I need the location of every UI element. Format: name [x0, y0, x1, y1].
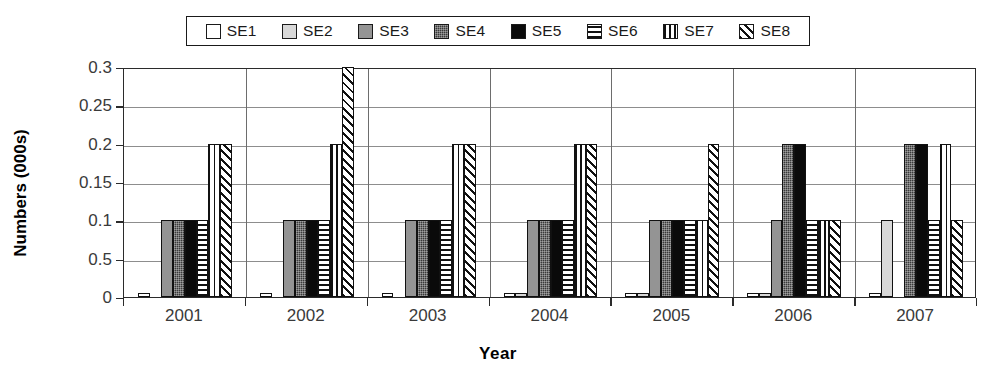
bar-2007-se8: [951, 220, 963, 297]
x-tick-mark: [610, 298, 611, 306]
legend-label: SE6: [608, 22, 638, 40]
x-tick-label: 2001: [165, 306, 203, 326]
group-separator: [246, 69, 247, 297]
bar-2006-se1: [747, 293, 759, 297]
bar-group-2003: [382, 69, 476, 297]
bar-2003-se7: [452, 144, 464, 297]
bar-2001-se7: [208, 144, 220, 297]
legend-swatch-se6-icon: [587, 24, 602, 39]
x-tick-mark: [976, 298, 977, 306]
x-tick-mark: [367, 298, 368, 306]
legend-swatch-se1-icon: [206, 24, 221, 39]
bar-2001-se5: [185, 220, 197, 297]
legend-label: SE1: [227, 22, 257, 40]
legend-label: SE2: [303, 22, 333, 40]
bar-group-2006: [747, 69, 841, 297]
bar-2006-se5: [794, 144, 806, 297]
y-tick-mark: [116, 221, 123, 222]
x-tick-mark: [732, 298, 733, 306]
bar-2005-se2: [637, 293, 649, 297]
bar-2006-se4: [782, 144, 794, 297]
legend-swatch-se2-icon: [282, 24, 297, 39]
y-axis-title: Numbers (000s): [11, 108, 31, 278]
bar-2007-se1: [869, 293, 881, 297]
bar-group-2007: [869, 69, 963, 297]
bar-2004-se7: [574, 144, 586, 297]
chart-legend: SE1SE2SE3SE4SE5SE6SE7SE8: [186, 16, 810, 46]
bar-2005-se1: [625, 293, 637, 297]
legend-item-se3: SE3: [358, 22, 409, 40]
legend-swatch-se8-icon: [739, 24, 754, 39]
bar-2003-se5: [429, 220, 441, 297]
bar-2003-se3: [405, 220, 417, 297]
bar-2004-se3: [527, 220, 539, 297]
bar-2002-se7: [330, 144, 342, 297]
legend-item-se6: SE6: [587, 22, 638, 40]
bar-2002-se8: [342, 67, 354, 297]
bar-2002-se5: [307, 220, 319, 297]
bar-2001-se4: [173, 220, 185, 297]
x-tick-label: 2007: [896, 306, 934, 326]
bar-2005-se8: [708, 144, 720, 297]
x-tick-mark: [854, 298, 855, 306]
bar-2002-se1: [260, 293, 272, 297]
bar-2003-se1: [382, 293, 394, 297]
bar-2007-se5: [916, 144, 928, 297]
x-tick-label: 2003: [409, 306, 447, 326]
legend-swatch-se4-icon: [434, 24, 449, 39]
y-tick-label: 0.1: [88, 211, 112, 231]
group-separator: [855, 69, 856, 297]
legend-swatch-se5-icon: [511, 24, 526, 39]
y-tick-label: 0.25: [79, 96, 112, 116]
bar-2004-se8: [586, 144, 598, 297]
legend-item-se5: SE5: [511, 22, 562, 40]
bar-2007-se2: [881, 220, 893, 297]
legend-item-se2: SE2: [282, 22, 333, 40]
bar-2003-se4: [417, 220, 429, 297]
x-tick-label: 2002: [287, 306, 325, 326]
x-axis-title: Year: [0, 344, 996, 364]
bar-2006-se7: [818, 220, 830, 297]
bar-2001-se1: [138, 293, 150, 297]
y-tick-mark: [116, 68, 123, 69]
bar-2006-se6: [806, 220, 818, 297]
legend-swatch-se3-icon: [358, 24, 373, 39]
bar-2004-se2: [515, 293, 527, 297]
bar-2005-se3: [649, 220, 661, 297]
bar-group-2002: [260, 69, 354, 297]
bar-2002-se3: [283, 220, 295, 297]
x-tick-mark: [245, 298, 246, 306]
bar-2001-se8: [220, 144, 232, 297]
bar-2001-se6: [197, 220, 209, 297]
bar-2006-se3: [771, 220, 783, 297]
group-separator: [733, 69, 734, 297]
bar-2004-se1: [504, 293, 516, 297]
y-tick-label: 0.15: [79, 173, 112, 193]
legend-item-se8: SE8: [739, 22, 790, 40]
bar-2002-se6: [318, 220, 330, 297]
legend-label: SE8: [760, 22, 790, 40]
bar-2006-se2: [759, 293, 771, 297]
bar-group-2004: [504, 69, 598, 297]
bar-2006-se8: [829, 220, 841, 297]
legend-label: SE7: [684, 22, 714, 40]
bar-2001-se3: [161, 220, 173, 297]
y-tick-label: 0.5: [88, 250, 112, 270]
plot-area: [123, 68, 976, 298]
y-tick-mark: [116, 145, 123, 146]
y-tick-mark: [116, 298, 123, 299]
bar-2007-se4: [904, 144, 916, 297]
bar-2005-se5: [672, 220, 684, 297]
bar-2007-se7: [940, 144, 952, 297]
y-tick-label: 0.3: [88, 58, 112, 78]
bar-2003-se6: [440, 220, 452, 297]
legend-item-se7: SE7: [663, 22, 714, 40]
group-separator: [368, 69, 369, 297]
y-tick-label: 0.2: [88, 135, 112, 155]
x-tick-label: 2006: [774, 306, 812, 326]
bar-2005-se6: [684, 220, 696, 297]
group-separator: [611, 69, 612, 297]
y-tick-mark: [116, 106, 123, 107]
legend-label: SE3: [379, 22, 409, 40]
bar-2005-se7: [696, 220, 708, 297]
